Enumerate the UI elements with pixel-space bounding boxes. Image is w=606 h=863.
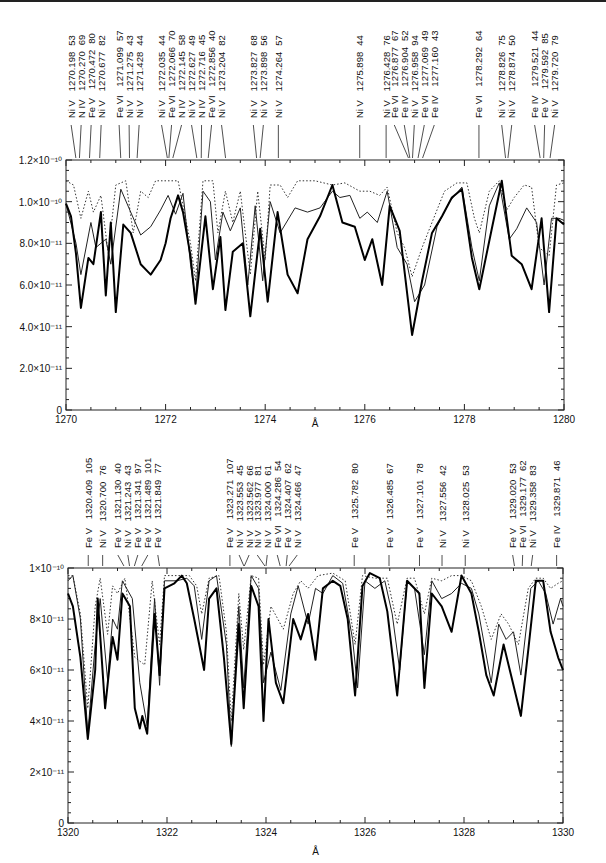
- x-axis-label: Å: [312, 417, 319, 429]
- y-tick-label: 1×10⁻¹⁰: [29, 563, 64, 574]
- line-id-label: Ni V 1328.02553: [460, 465, 471, 548]
- line-id-leader: [142, 555, 148, 566]
- line-id-label: Ni V 1275.89844: [354, 35, 365, 118]
- line-id-label: Fe V 1325.78280: [349, 463, 360, 548]
- line-id-leader: [289, 555, 297, 566]
- spectrum-figure: 127012721274127612781280Å02.0×10⁻¹¹4.0×1…: [0, 0, 606, 863]
- line-id-leader: [239, 555, 244, 566]
- line-id-leader: [502, 125, 506, 158]
- line-id-leader: [413, 125, 415, 158]
- line-id-leader: [158, 555, 160, 566]
- line-id-leader: [118, 555, 124, 566]
- x-tick-label: 1330: [552, 827, 575, 838]
- y-tick-label: 6.0×10⁻¹¹: [19, 280, 62, 291]
- line-id-leader: [192, 125, 197, 158]
- line-id-label: Fe V 1327.10178: [414, 463, 425, 548]
- y-tick-label: 6×10⁻¹¹: [30, 665, 65, 676]
- line-id-leader: [531, 555, 532, 566]
- line-id-label: Ni V 1270.67782: [96, 35, 107, 118]
- line-id-label: Ni V 1273.89856: [258, 35, 269, 118]
- line-id-leader: [423, 125, 435, 158]
- x-tick-label: 1322: [156, 827, 179, 838]
- line-id-label: Ni V 1320.70076: [97, 465, 108, 548]
- line-id-label: Ni V 1327.55642: [437, 465, 448, 548]
- line-id-label: Fe V 1321.84977: [152, 463, 163, 548]
- line-id-leader: [404, 125, 410, 158]
- line-id-leader: [208, 125, 211, 158]
- line-id-label: Fe VI 1278.29264: [473, 30, 484, 118]
- line-id-label: Fe V 1320.409105: [83, 458, 94, 548]
- line-id-leader: [137, 125, 139, 158]
- y-tick-label: 8.0×10⁻¹¹: [19, 238, 62, 249]
- line-id-leader: [100, 125, 101, 158]
- panel-2: 132013221324132613281330Å02×10⁻¹¹4×10⁻¹¹…: [29, 458, 574, 857]
- y-tick-label: 0: [58, 818, 64, 829]
- series-observed: [66, 181, 564, 335]
- y-tick-label: 1.2×10⁻¹⁰: [19, 155, 62, 166]
- x-axis-label: Å: [312, 845, 319, 857]
- line-id-label: Fe V 1326.48567: [384, 463, 395, 548]
- series-observed: [68, 573, 563, 744]
- series-continuum: [66, 181, 564, 281]
- line-id-leader: [394, 125, 408, 158]
- line-id-leader: [79, 125, 81, 158]
- line-id-label: Ni V 1271.42844: [134, 35, 145, 118]
- line-id-leader: [253, 125, 256, 158]
- x-tick-label: 1324: [255, 827, 278, 838]
- y-tick-label: 0: [56, 405, 62, 416]
- line-id-leader: [173, 125, 182, 158]
- line-id-leader: [266, 555, 267, 566]
- plot-frame: [66, 160, 564, 410]
- panel-1: 127012721274127612781280Å02.0×10⁻¹¹4.0×1…: [19, 30, 576, 429]
- line-id-leader: [550, 125, 555, 158]
- line-id-label: Ni V 1279.72079: [549, 35, 560, 118]
- x-tick-label: 1328: [453, 827, 476, 838]
- line-id-leader: [162, 125, 168, 158]
- line-id-label: Ni V 1324.46647: [292, 465, 303, 548]
- line-id-leader: [71, 125, 76, 158]
- line-id-label: Ni V 1278.87450: [506, 35, 517, 118]
- y-tick-label: 2×10⁻¹¹: [30, 767, 65, 778]
- line-id-leader: [508, 125, 512, 158]
- line-id-leader: [169, 125, 172, 158]
- line-id-label: Ni V 1273.20482: [216, 35, 227, 118]
- x-tick-label: 1276: [354, 414, 377, 425]
- line-id-leader: [535, 125, 541, 158]
- x-tick-label: 1274: [254, 414, 277, 425]
- line-id-leader: [244, 555, 249, 566]
- line-id-leader: [277, 555, 280, 566]
- line-id-label: Ni V 1329.35883: [527, 465, 538, 548]
- line-id-leader: [134, 555, 137, 566]
- line-id-label: Fe IV 1329.87146: [551, 460, 562, 548]
- y-tick-label: 8×10⁻¹¹: [30, 614, 65, 625]
- line-id-leader: [90, 125, 92, 158]
- y-tick-label: 4.0×10⁻¹¹: [19, 322, 62, 333]
- y-tick-label: 4×10⁻¹¹: [30, 716, 65, 727]
- line-id-label: Ni V 1274.26457: [273, 35, 284, 118]
- y-tick-label: 2.0×10⁻¹¹: [19, 363, 62, 374]
- line-id-leader: [260, 125, 263, 158]
- line-id-label: Fe IV 1277.16043: [429, 30, 440, 118]
- x-tick-label: 1326: [354, 827, 377, 838]
- line-id-leader: [128, 555, 130, 566]
- line-id-leader: [222, 125, 226, 158]
- line-id-leader: [286, 555, 287, 566]
- x-tick-label: 1272: [154, 414, 177, 425]
- line-id-leader: [119, 125, 121, 158]
- line-id-leader: [513, 555, 515, 566]
- x-tick-label: 1278: [453, 414, 476, 425]
- y-tick-label: 1.0×10⁻¹⁰: [19, 197, 62, 208]
- x-tick-label: 1280: [553, 414, 576, 425]
- line-id-leader: [257, 555, 265, 566]
- line-id-leader: [418, 125, 424, 158]
- line-id-leader: [544, 125, 545, 158]
